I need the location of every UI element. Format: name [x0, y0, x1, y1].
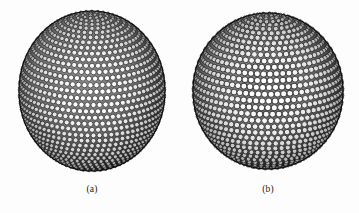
figure-panel-b: (b): [180, 0, 359, 213]
figure-panel-a: (a): [0, 0, 180, 213]
panel-a-caption: (a): [62, 184, 122, 194]
figure-container: (a) (b): [0, 0, 359, 213]
sphere-a-graphic: [0, 0, 180, 180]
sphere-a-svg: [0, 0, 180, 180]
panel-b-caption: (b): [238, 184, 298, 194]
sphere-b-svg: [180, 0, 359, 180]
sphere-b-graphic: [180, 0, 359, 180]
